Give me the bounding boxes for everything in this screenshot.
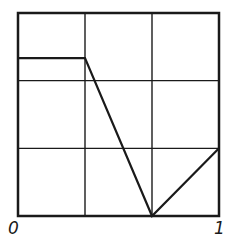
grid-lines [18, 13, 219, 216]
x-tick-label-1: 1 [214, 218, 225, 238]
chart-figure: 0 1 [0, 0, 234, 246]
plot-frame [18, 13, 219, 216]
plot-area [0, 0, 234, 246]
x-tick-label-0: 0 [8, 218, 19, 238]
data-line [18, 58, 219, 216]
